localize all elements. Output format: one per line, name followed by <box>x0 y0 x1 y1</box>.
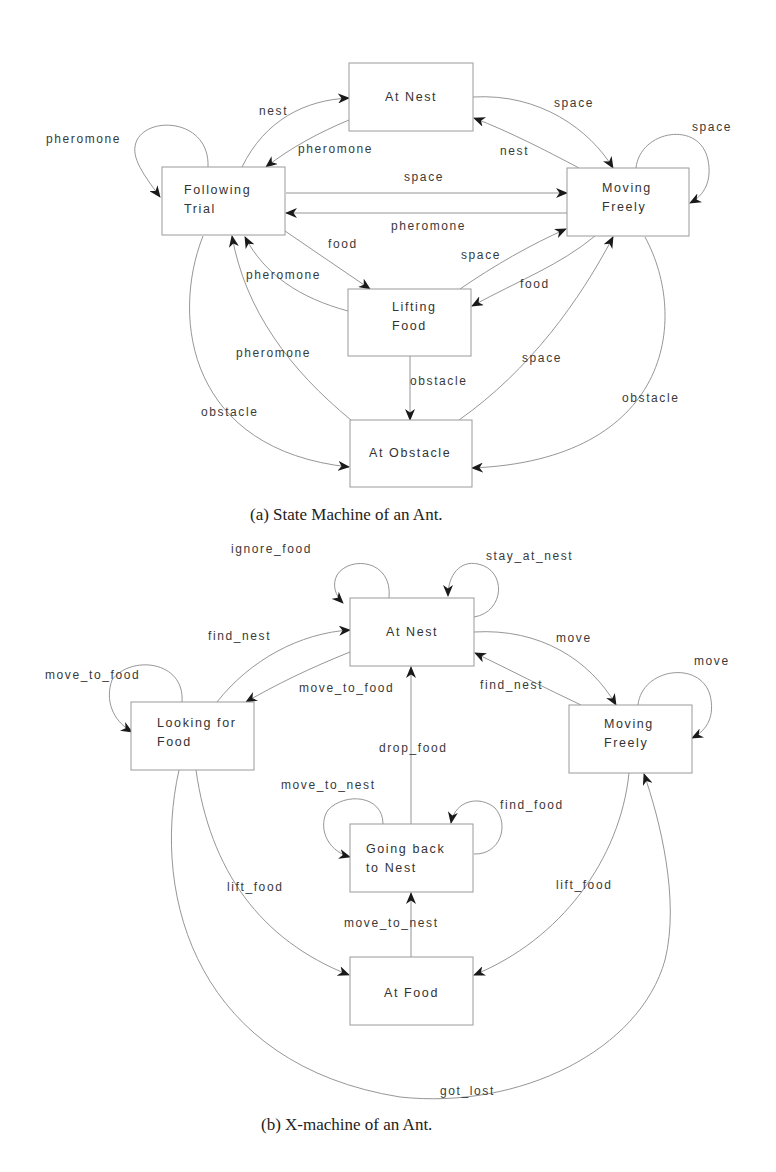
state-label: At Food <box>384 986 439 1000</box>
edge-label: ignore_food <box>231 542 312 556</box>
edge-label: pheromone <box>236 346 311 360</box>
edge-label: food <box>328 237 358 251</box>
state-label-line2: Trial <box>184 202 216 216</box>
edge-label: stay_at_nest <box>486 549 573 563</box>
state-b-moving-freely: Moving Freely <box>569 705 692 773</box>
edge-a-space-obstacle-to-moving <box>459 237 613 420</box>
state-b-at-nest: At Nest <box>350 598 474 666</box>
edge-label: nest <box>500 144 529 158</box>
diagram-a-edge-labels: pheromone nest pheromone space nest spac… <box>46 96 732 419</box>
state-b-looking-for-food: Looking for Food <box>131 702 254 770</box>
edge-label: pheromone <box>46 132 121 146</box>
edge-label: find_nest <box>208 629 271 643</box>
edge-label: obstacle <box>201 405 259 419</box>
edge-label: food <box>520 277 550 291</box>
edge-a-food-moving-to-lifting <box>472 236 595 306</box>
state-a-lifting-food: Lifting Food <box>348 289 471 356</box>
edge-label: space <box>522 351 562 365</box>
edge-label: move_to_nest <box>344 916 439 930</box>
edge-label: move_to_nest <box>281 778 376 792</box>
edge-b-ignore-food-self <box>335 563 390 603</box>
state-label-line1: Going back <box>366 842 445 856</box>
edge-label: space <box>461 248 501 262</box>
state-a-following-trial: Following Trial <box>162 167 285 235</box>
state-label: At Obstacle <box>369 446 451 460</box>
edge-a-obstacle-moving-to-obstacle <box>472 237 665 468</box>
edge-label: move <box>694 654 730 668</box>
edge-label: find_nest <box>480 678 543 692</box>
edge-label: nest <box>259 104 288 118</box>
edge-b-lift-food-looking-to-atfood <box>196 770 349 975</box>
edge-label: obstacle <box>410 374 468 388</box>
edge-b-move-atnest-to-moving <box>474 632 616 705</box>
state-label-line1: Following <box>184 183 251 197</box>
edge-a-nest-moving-to-atnest <box>474 118 579 168</box>
caption-b: (b) X-machine of an Ant. <box>261 1115 432 1134</box>
state-a-moving-freely: Moving Freely <box>567 168 689 236</box>
edge-label: space <box>554 96 594 110</box>
ant-state-diagrams: At Nest Following Trial Moving Freely Li… <box>0 0 776 1172</box>
state-label-line2: Freely <box>604 736 648 750</box>
state-label-line1: Lifting <box>392 300 437 314</box>
edge-label: pheromone <box>246 268 321 282</box>
edge-label: move_to_food <box>45 668 140 682</box>
state-label-line2: Freely <box>602 200 646 214</box>
state-label-line1: Moving <box>602 181 652 195</box>
state-label-line1: Moving <box>604 717 654 731</box>
edge-label: find_food <box>500 798 564 812</box>
edge-label: drop_food <box>379 741 447 755</box>
edge-label: lift_food <box>556 878 612 892</box>
edge-label: pheromone <box>391 219 466 233</box>
state-a-at-nest: At Nest <box>349 63 473 131</box>
state-label: At Nest <box>385 90 437 104</box>
state-label: At Nest <box>386 625 438 639</box>
state-b-at-food: At Food <box>350 957 473 1025</box>
edge-label: got_lost <box>440 1084 495 1098</box>
diagram-a-state-machine: At Nest Following Trial Moving Freely Li… <box>46 63 732 524</box>
state-label-line2: Food <box>392 319 427 333</box>
edge-label: space <box>404 170 444 184</box>
edge-label: obstacle <box>622 391 680 405</box>
edge-label: lift_food <box>227 880 283 894</box>
edge-label: move <box>556 631 592 645</box>
state-b-going-back-to-nest: Going back to Nest <box>350 824 473 892</box>
diagram-b-x-machine: At Nest Looking for Food Moving Freely G… <box>45 542 730 1134</box>
edge-label: pheromone <box>298 142 373 156</box>
edge-b-got-lost-looking-to-moving <box>171 770 670 1099</box>
edge-label: space <box>692 120 732 134</box>
state-label-line2: to Nest <box>366 861 417 875</box>
edge-label: move_to_food <box>299 681 394 695</box>
state-label-line2: Food <box>157 735 192 749</box>
caption-a: (a) State Machine of an Ant. <box>250 505 443 524</box>
state-label-line1: Looking for <box>157 716 236 730</box>
state-a-at-obstacle: At Obstacle <box>350 420 472 487</box>
